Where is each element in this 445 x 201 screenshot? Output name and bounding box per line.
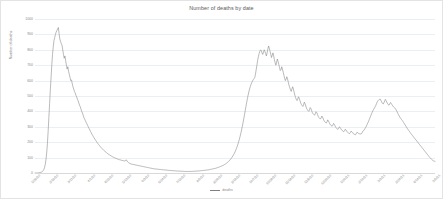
x-tick-label: 1/20/21	[336, 174, 350, 188]
x-tick-label: 3/3/21	[373, 174, 387, 188]
x-tick-label: 12/9/20	[300, 174, 314, 188]
y-tick-label: 1000	[3, 17, 33, 21]
y-tick-label: 100	[3, 156, 33, 160]
y-tick-label: 800	[3, 48, 33, 52]
x-tick-label: 2/10/21	[354, 174, 368, 188]
x-tick-label: 4/22/20	[100, 174, 114, 188]
series-deaths	[35, 19, 435, 173]
x-tick-label: 10/7/20	[245, 174, 259, 188]
x-tick-label: 1/29/20	[27, 174, 41, 188]
x-tick-label: 3/24/21	[391, 174, 405, 188]
x-tick-label: 8/26/20	[209, 174, 223, 188]
x-tick-label: 12/30/20	[318, 174, 332, 188]
legend: deaths	[1, 188, 442, 192]
y-tick-label: 900	[3, 32, 33, 36]
x-tick-label: 5/5/21	[427, 174, 441, 188]
x-tick-label: 3/11/20	[63, 174, 77, 188]
chart-title: Number of deaths by date	[1, 5, 442, 11]
y-tick-label: 700	[3, 63, 33, 67]
x-tick-label: 2/19/20	[45, 174, 59, 188]
x-tick-label: 9/16/20	[227, 174, 241, 188]
x-tick-label: 6/3/20	[136, 174, 150, 188]
series-line-deaths	[35, 27, 435, 173]
y-tick-label: 500	[3, 94, 33, 98]
y-tick-label: 300	[3, 125, 33, 129]
legend-label-deaths: deaths	[222, 188, 233, 192]
legend-line-swatch	[210, 190, 220, 191]
y-tick-label: 0	[3, 171, 33, 175]
chart-container: Number of deaths by date Number of death…	[0, 0, 443, 199]
x-tick-label: 4/1/20	[82, 174, 96, 188]
y-tick-label: 200	[3, 140, 33, 144]
y-tick-label: 600	[3, 79, 33, 83]
x-tick-label: 5/13/20	[118, 174, 132, 188]
x-axis-line	[35, 173, 435, 174]
y-tick-label: 400	[3, 109, 33, 113]
x-tick-label: 11/18/20	[282, 174, 296, 188]
x-tick-label: 4/14/21	[409, 174, 423, 188]
plot-area	[35, 19, 435, 173]
x-tick-label: 6/24/20	[154, 174, 168, 188]
x-tick-label: 8/5/20	[191, 174, 205, 188]
y-axis-tick-labels: 10009008007006005004003002001000	[1, 19, 33, 173]
x-tick-label: 7/15/20	[173, 174, 187, 188]
x-tick-label: 10/28/20	[263, 174, 277, 188]
